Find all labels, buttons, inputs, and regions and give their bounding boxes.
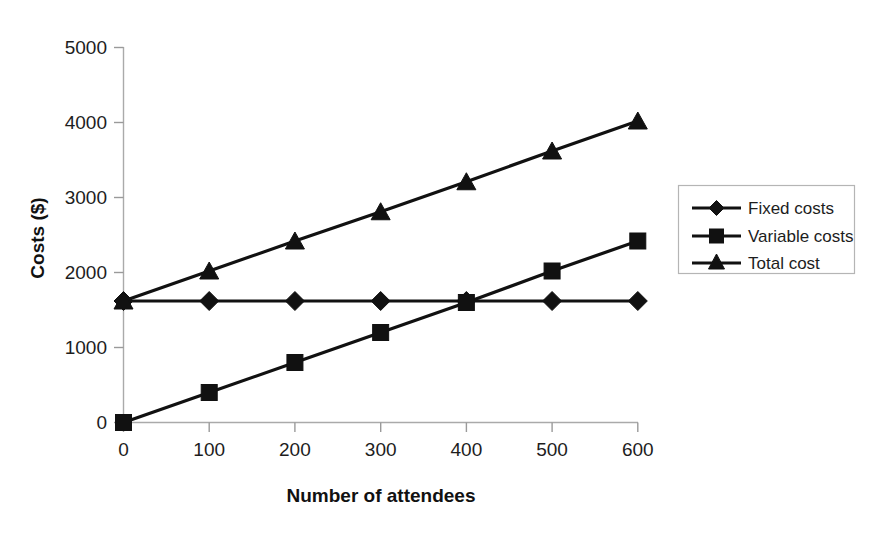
y-tick-label-0: 0 xyxy=(96,412,107,433)
x-tick-label-300: 300 xyxy=(365,439,397,460)
square-marker-icon xyxy=(373,325,389,341)
x-tick-label-400: 400 xyxy=(451,439,483,460)
square-marker-icon xyxy=(544,263,560,279)
x-tick-label-600: 600 xyxy=(622,439,654,460)
chart-figure: 5000 4000 3000 2000 1000 0 Costs ($) 0 1… xyxy=(0,0,895,538)
x-tick-label-500: 500 xyxy=(536,439,568,460)
legend-item-variable-costs[interactable]: Variable costs xyxy=(692,227,854,246)
x-axis-title: Number of attendees xyxy=(287,485,476,506)
square-marker-icon xyxy=(458,295,474,311)
x-tick-label-0: 0 xyxy=(118,439,129,460)
x-tick-label-200: 200 xyxy=(279,439,311,460)
legend-label-fixed-costs: Fixed costs xyxy=(748,199,834,218)
y-tick-label-3000: 3000 xyxy=(65,187,107,208)
y-axis-title: Costs ($) xyxy=(27,197,48,278)
x-tick-label-100: 100 xyxy=(193,439,225,460)
square-marker-icon xyxy=(710,229,724,243)
y-tick-label-1000: 1000 xyxy=(65,337,107,358)
square-marker-icon xyxy=(201,385,217,401)
square-marker-icon xyxy=(287,355,303,371)
y-tick-label-5000: 5000 xyxy=(65,37,107,58)
line-chart: 5000 4000 3000 2000 1000 0 Costs ($) 0 1… xyxy=(0,0,895,538)
y-tick-label-4000: 4000 xyxy=(65,112,107,133)
square-marker-icon xyxy=(116,415,132,431)
y-tick-label-2000: 2000 xyxy=(65,262,107,283)
square-marker-icon xyxy=(630,233,646,249)
legend-label-total-cost: Total cost xyxy=(748,254,820,273)
chart-legend: Fixed costs Variable costs Total cost xyxy=(679,186,855,274)
legend-label-variable-costs: Variable costs xyxy=(748,227,854,246)
